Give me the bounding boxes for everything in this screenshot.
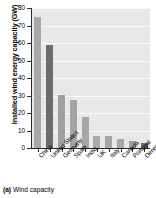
y-tick-label: 10 [9,127,25,134]
y-tick [27,96,31,97]
gridline [32,26,150,27]
gridline [32,8,150,9]
y-tick-label: 0 [9,144,25,151]
y-tick-label: 20 [9,109,25,116]
bar [105,136,112,148]
y-tick [27,26,31,27]
y-tick [27,8,31,9]
bar [46,45,53,148]
caption-label: (a) [3,186,11,193]
y-tick [27,148,31,149]
y-tick [27,113,31,114]
y-tick-label: 40 [9,74,25,81]
figure-caption: (a) Wind capacity [3,186,54,193]
wind-capacity-figure: Installed wind energy capacity (GW) 0102… [0,0,156,198]
y-tick [27,131,31,132]
y-tick-label: 80 [9,4,25,11]
y-axis-line [31,8,32,149]
bar [34,17,41,148]
y-tick [27,78,31,79]
plot-area [32,8,150,148]
y-tick [27,61,31,62]
caption-text: Wind capacity [13,186,54,193]
y-tick [27,43,31,44]
y-tick-label: 60 [9,39,25,46]
y-tick-label: 30 [9,92,25,99]
y-tick-label: 50 [9,57,25,64]
bar [117,139,124,148]
y-tick-label: 70 [9,22,25,29]
